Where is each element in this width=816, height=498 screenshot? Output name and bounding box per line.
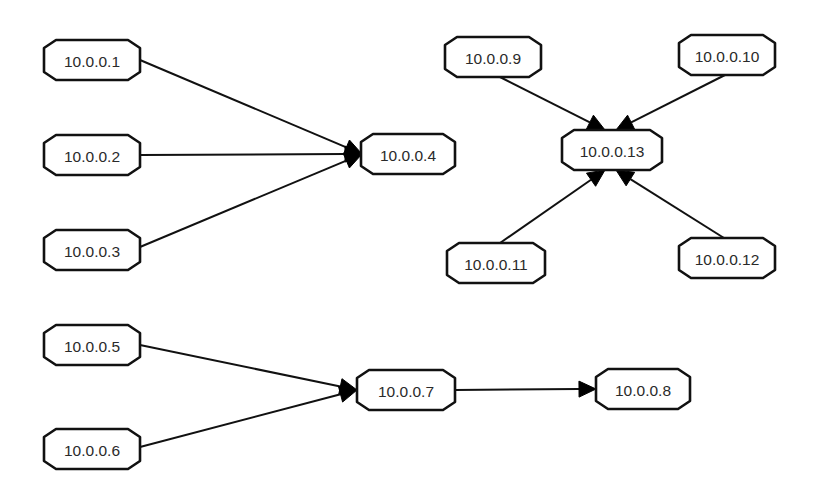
node-10-0-0-10[interactable]: 10.0.0.10: [679, 35, 775, 75]
nodes-layer: 10.0.0.110.0.0.210.0.0.310.0.0.410.0.0.9…: [44, 35, 775, 469]
edge-line: [140, 394, 341, 447]
node-label: 10.0.0.3: [64, 243, 120, 260]
node-10-0-0-7[interactable]: 10.0.0.7: [357, 370, 455, 410]
edge-line: [631, 75, 725, 122]
edge-n12-to-n13: [616, 170, 724, 238]
arrowhead-icon: [579, 381, 596, 397]
edge-line: [500, 180, 591, 243]
edge-n10-to-n13: [616, 75, 725, 130]
node-10-0-0-11[interactable]: 10.0.0.11: [447, 243, 545, 283]
edge-n1-to-n4: [140, 60, 362, 155]
arrowhead-icon: [343, 153, 362, 168]
node-label: 10.0.0.13: [580, 143, 645, 160]
node-label: 10.0.0.7: [378, 383, 434, 400]
arrowhead-icon: [586, 170, 605, 186]
edge-n3-to-n4: [140, 153, 362, 247]
node-label: 10.0.0.1: [64, 53, 120, 70]
edge-line: [500, 77, 590, 122]
node-label: 10.0.0.5: [64, 338, 120, 355]
node-label: 10.0.0.2: [64, 148, 120, 165]
node-10-0-0-6[interactable]: 10.0.0.6: [44, 429, 140, 469]
node-10-0-0-9[interactable]: 10.0.0.9: [445, 37, 541, 77]
edge-n9-to-n13: [500, 77, 605, 130]
node-label: 10.0.0.6: [64, 442, 120, 459]
node-label: 10.0.0.9: [465, 50, 521, 67]
edge-n7-to-n8: [455, 381, 596, 397]
node-10-0-0-13[interactable]: 10.0.0.13: [562, 130, 662, 170]
edge-n5-to-n7: [140, 345, 357, 394]
node-label: 10.0.0.10: [695, 48, 760, 65]
node-10-0-0-5[interactable]: 10.0.0.5: [44, 325, 140, 365]
node-10-0-0-2[interactable]: 10.0.0.2: [44, 135, 140, 175]
node-label: 10.0.0.4: [380, 147, 436, 164]
node-10-0-0-3[interactable]: 10.0.0.3: [44, 230, 140, 270]
node-10-0-0-1[interactable]: 10.0.0.1: [44, 40, 140, 80]
node-10-0-0-4[interactable]: 10.0.0.4: [361, 134, 455, 174]
node-label: 10.0.0.8: [615, 382, 671, 399]
edge-line: [140, 161, 346, 247]
edge-line: [630, 179, 724, 238]
edge-line: [455, 389, 579, 390]
node-label: 10.0.0.12: [695, 251, 760, 268]
edge-n6-to-n7: [140, 387, 357, 447]
edge-line: [140, 154, 345, 155]
edge-n11-to-n13: [500, 170, 605, 243]
network-diagram: 10.0.0.110.0.0.210.0.0.310.0.0.410.0.0.9…: [0, 0, 816, 498]
node-label: 10.0.0.11: [464, 256, 528, 273]
node-10-0-0-8[interactable]: 10.0.0.8: [596, 369, 690, 409]
edge-n2-to-n4: [140, 146, 362, 162]
arrowhead-icon: [616, 170, 635, 186]
edge-line: [140, 345, 340, 387]
edge-line: [140, 60, 346, 147]
node-10-0-0-12[interactable]: 10.0.0.12: [679, 238, 775, 278]
